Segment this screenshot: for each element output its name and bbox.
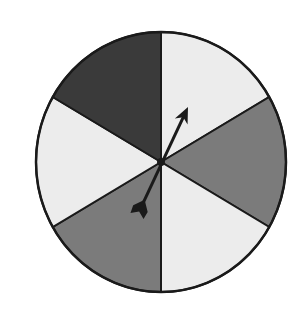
spinner-diagram	[0, 0, 305, 311]
pivot-icon	[157, 158, 165, 166]
